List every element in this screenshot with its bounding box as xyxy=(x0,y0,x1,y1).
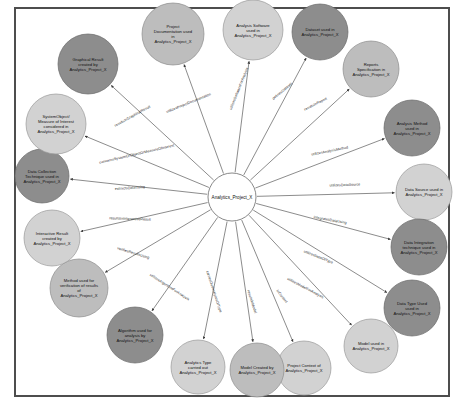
node-label-line: Analytics_Project_X xyxy=(285,368,322,373)
graph-node-project-context[interactable]: Project Context ofAnalytics_Project_X xyxy=(277,341,331,395)
graph-node-dataset[interactable]: Dataset used inAnalytics_Project_X xyxy=(292,4,348,60)
graph-edge-model-used[interactable]: utilizesModelForAnalysis xyxy=(249,215,352,325)
graph-edge-system-object-measure[interactable]: concernsSystemOrObjectOrMeasureOfInteres… xyxy=(85,136,209,187)
edge-line xyxy=(256,203,390,239)
node-label-line: Analytics_Project_X xyxy=(238,370,275,375)
graph-node-model-used[interactable]: Model used inAnalytics_Project_X xyxy=(344,319,398,373)
edge-label-analysis-software: utilizesSoftwareForAnalysis xyxy=(229,67,250,111)
node-label-line: Analytics_Project_X xyxy=(37,129,74,134)
nodes-layer: Graphical Resultcreated byAnalytics_Proj… xyxy=(15,0,452,397)
graph-edge-data-source[interactable]: utilizesDataSource xyxy=(257,182,395,196)
graph-node-method-verification[interactable]: Method used forverification of resultsof… xyxy=(50,259,108,317)
graph-edge-data-collection-technique[interactable]: extractsDataUsing xyxy=(70,179,207,194)
graph-edge-project-documentation[interactable]: utilizesProjectDocumentation xyxy=(166,65,224,174)
edge-label-analytics-type: carriesOutAnalyticsOfType xyxy=(205,270,222,313)
edge-label-analysis-method: utilizesAnalysisMethod xyxy=(311,145,349,156)
node-label-line: Analytics_Project_X xyxy=(179,370,216,375)
graph-node-data-type-used[interactable]: Data Type Usedused inAnalytics_Project_X xyxy=(384,280,440,336)
graph-node-analysis-method[interactable]: Analysis Methodused inAnalytics_Project_… xyxy=(384,100,440,156)
graph-node-analytics-type[interactable]: Analytics Typecarried outAnalytics_Proje… xyxy=(171,340,225,394)
edge-label-project-documentation: utilizesProjectDocumentation xyxy=(166,92,212,114)
graph-edge-analytics-type[interactable]: carriesOutAnalyticsOfType xyxy=(204,222,228,340)
edge-label-data-source: utilizesDataSource xyxy=(329,182,360,187)
graph-edge-data-type-used[interactable]: utilizesDataOfType xyxy=(253,210,387,292)
graph-node-graphical-result[interactable]: Graphical Resultcreated byAnalytics_Proj… xyxy=(58,34,118,94)
node-label-line: Analytics_Project_X xyxy=(69,67,106,72)
edge-line xyxy=(204,222,228,340)
node-label-line: Analytics_Project_X xyxy=(116,338,153,343)
graph-edge-analysis-method[interactable]: utilizesAnalysisMethod xyxy=(255,139,384,188)
edge-label-interactive-result: resultsInInteractiveResult xyxy=(109,216,151,221)
node-label-line: Analytics_Project_X xyxy=(60,293,97,298)
edge-label-algorithm-used: utilizesAlgorithmForAnalysis xyxy=(149,273,190,302)
graph-edge-data-integration-technique[interactable]: integratesDataUsing xyxy=(256,203,390,239)
node-label-line: Analytics_Project_X xyxy=(400,250,437,255)
node-label-line: Analytics_Project_X xyxy=(352,346,389,351)
edge-label-dataset: definesDataset xyxy=(272,82,293,101)
graph-node-data-collection-technique[interactable]: Data CollectionTechnique used inAnalytic… xyxy=(15,149,69,203)
edge-line xyxy=(257,193,395,197)
node-label-line: Analytics_Project_X xyxy=(23,179,60,184)
node-label-line: Analytics_Project_X xyxy=(393,311,430,316)
graph-node-center-analytics-project-x[interactable]: Analytics_Project_X xyxy=(208,173,256,221)
center-node-label: Analytics_Project_X xyxy=(212,195,253,200)
knowledge-graph[interactable]: resultsInGraphicalResultutilizesProjectD… xyxy=(0,0,464,415)
node-label-line: Analytics_Project_X xyxy=(352,72,389,77)
graph-edge-analysis-software[interactable]: utilizesSoftwareForAnalysis xyxy=(229,61,250,172)
graph-node-analysis-software[interactable]: Analysis Softwareused inAnalytics_Projec… xyxy=(223,0,283,60)
edge-label-method-verification: verifiesResultsUsing xyxy=(117,246,150,260)
node-label-line: Analytics_Project_X xyxy=(154,39,191,44)
edge-label-project-context: inContext xyxy=(275,289,288,304)
edge-line xyxy=(249,215,352,325)
graph-node-model-created-by[interactable]: Model Created byAnalytics_Project_X xyxy=(230,343,284,397)
graph-node-data-integration-technique[interactable]: Data Integrationtechnique used inAnalyti… xyxy=(391,219,447,275)
graph-node-algorithm-used[interactable]: Algorithm used foranalysis byAnalytics_P… xyxy=(107,307,163,363)
edge-line xyxy=(253,210,387,292)
edge-line xyxy=(242,220,293,342)
edge-line xyxy=(255,139,384,188)
node-label-line: Analytics_Project_X xyxy=(33,241,70,246)
graph-node-project-documentation[interactable]: ProjectDocumentation usedinAnalytics_Pro… xyxy=(142,3,204,65)
graph-node-interactive-result[interactable]: Interactive Resultcreated byAnalytics_Pr… xyxy=(24,210,80,266)
node-label-line: Analytics_Project_X xyxy=(405,192,442,197)
graph-edge-interactive-result[interactable]: resultsInInteractiveResult xyxy=(81,203,208,232)
edge-line xyxy=(184,65,223,174)
edge-label-graphical-result: resultsInGraphicalResult xyxy=(114,105,151,128)
node-label-line: Analytics_Project_X xyxy=(234,33,271,38)
graph-edge-algorithm-used[interactable]: utilizesAlgorithmForAnalysis xyxy=(149,217,218,310)
graph-node-data-source[interactable]: Data Source used inAnalytics_Project_X xyxy=(396,164,452,220)
graph-edge-model-created-by[interactable]: resultsInModel xyxy=(236,222,258,342)
graph-node-reports-specification[interactable]: ReportsSpecification inAnalytics_Project… xyxy=(343,41,399,97)
graph-edge-project-context[interactable]: inContext xyxy=(242,220,293,342)
edge-label-model-used: utilizesModelForAnalysis xyxy=(287,277,325,300)
diagram-page: resultsInGraphicalResultutilizesProjectD… xyxy=(0,0,464,415)
node-label-line: Analytics_Project_X xyxy=(393,131,430,136)
graph-node-system-object-measure[interactable]: SystemObject/Measure of Interestconsider… xyxy=(26,94,86,154)
edge-label-reports-specification: resultsInReport xyxy=(303,97,327,112)
edge-label-data-collection-technique: extractsDataUsing xyxy=(115,185,145,191)
node-label-line: Analytics_Project_X xyxy=(301,32,338,37)
